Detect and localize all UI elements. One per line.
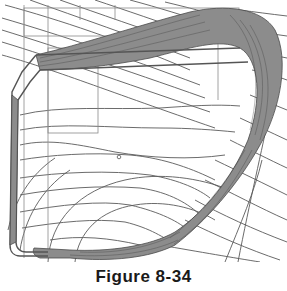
figure-caption: Figure 8-34	[0, 267, 287, 287]
toolpath-diagram	[0, 0, 287, 262]
